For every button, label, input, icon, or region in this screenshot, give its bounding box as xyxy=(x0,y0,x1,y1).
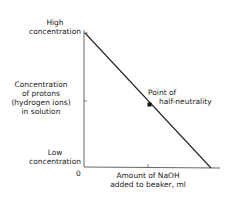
y-title-line2: of protons xyxy=(4,89,78,98)
x-title-line2: added to beaker, ml xyxy=(98,180,198,189)
origin-label: 0 xyxy=(76,169,81,178)
y-title-line4: in solution xyxy=(4,107,78,116)
y-low-line1: Low xyxy=(29,148,81,157)
y-tick-high-label: High concentration xyxy=(29,18,81,36)
point-line1: Point of xyxy=(148,88,212,97)
x-axis xyxy=(84,167,220,168)
y-title-line1: Concentration xyxy=(4,80,78,89)
y-tick-low-label: Low concentration xyxy=(29,148,81,166)
point-line2: half-neutrality xyxy=(148,97,212,106)
y-title-line3: (hydrogen ions) xyxy=(4,98,78,107)
half-neutrality-annotation: Point of half-neutrality xyxy=(148,88,212,106)
y-high-line1: High xyxy=(29,18,81,27)
x-axis-title: Amount of NaOH added to beaker, ml xyxy=(98,171,198,189)
y-axis-title: Concentration of protons (hydrogen ions)… xyxy=(4,80,78,116)
y-low-line2: concentration xyxy=(29,157,81,166)
y-high-line2: concentration xyxy=(29,27,81,36)
x-title-line1: Amount of NaOH xyxy=(98,171,198,180)
